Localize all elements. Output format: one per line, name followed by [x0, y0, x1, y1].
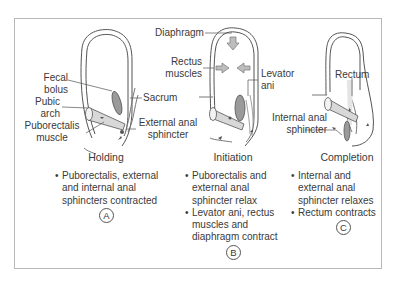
label-external-anal-sphincter: External anal sphincter	[137, 117, 199, 141]
bullet-line: and internal anal	[62, 182, 158, 194]
label-diaphragm: Diaphragm	[155, 27, 204, 39]
bullet-line: diaphragm contract	[192, 231, 278, 243]
panel-a-illustration	[81, 30, 138, 154]
circled-letter-a: A	[99, 208, 114, 223]
label-levator: Levator	[261, 68, 294, 80]
anal-canal-c-shape	[344, 121, 350, 141]
bullet-line: Puborectalis, external	[62, 170, 158, 182]
circled-letter-b: B	[226, 245, 241, 260]
rectus-arrow-left-icon	[237, 63, 250, 73]
circled-letter-c: C	[336, 220, 351, 235]
label-puborectalis-muscle: Puborectalis muscle	[22, 120, 82, 144]
bullet-line: sphincter relaxes	[298, 195, 376, 207]
label-fecal-bolus: Fecal bolus	[38, 72, 68, 96]
label-pubic-arch: Pubic arch	[30, 96, 60, 120]
bullet-line: external anal	[298, 182, 376, 194]
label-rectus-muscles: Rectus muscles	[162, 56, 202, 80]
bullet-list-b: Puborectalis and external anal sphincter…	[185, 170, 278, 244]
label-sacrum: Sacrum	[143, 92, 177, 104]
phase-title-initiation: Initiation	[201, 151, 265, 163]
bullet-item: Rectum contracts	[291, 207, 376, 219]
bullet-line: Rectum contracts	[298, 207, 376, 219]
bullet-item: Puborectalis and external anal sphincter…	[185, 170, 278, 207]
label-levator-ani: Levator ani	[261, 68, 294, 92]
label-rectum: Rectum	[335, 69, 369, 81]
label-puborectalis: Puborectalis	[22, 120, 82, 132]
bullet-line: Internal and	[298, 170, 376, 182]
bullet-list-a: Puborectalis, external and internal anal…	[55, 170, 158, 207]
label-rectus: Rectus	[162, 56, 202, 68]
pubic-arch-c-shape	[325, 98, 359, 123]
label-internal-anal-sphincter: Internal anal sphincter	[262, 112, 327, 136]
label-fecal: Fecal	[38, 72, 68, 84]
bullet-list-c: Internal and external anal sphincter rel…	[291, 170, 376, 219]
fecal-bolus-b-shape	[235, 95, 245, 121]
label-ani: ani	[261, 80, 294, 92]
rectus-arrow-right-icon	[216, 63, 229, 73]
bullet-item: Puborectalis, external and internal anal…	[55, 170, 158, 207]
bullet-item: Levator ani, rectus muscles and diaphrag…	[185, 207, 278, 244]
label-muscle: muscle	[22, 132, 82, 144]
bullet-line: sphincters contracted	[62, 195, 158, 207]
bullet-line: external anal	[192, 182, 278, 194]
label-sphincter: sphincter	[262, 124, 327, 136]
bullet-line: Levator ani, rectus	[192, 207, 278, 219]
bullet-line: sphincter relax	[192, 195, 278, 207]
label-bolus: bolus	[38, 84, 68, 96]
label-muscles: muscles	[162, 68, 202, 80]
label-pubic: Pubic	[30, 96, 60, 108]
bullet-item: Internal and external anal sphincter rel…	[291, 170, 376, 207]
bullet-line: Puborectalis and	[192, 170, 278, 182]
fecal-bolus-shape	[110, 90, 124, 115]
label-internal-anal: Internal anal	[262, 112, 327, 124]
phase-title-completion: Completion	[312, 151, 382, 163]
phase-title-holding: Holding	[74, 151, 138, 163]
panel-b-illustration	[199, 28, 258, 146]
diaphragm-arrow-icon	[227, 37, 239, 50]
bullet-line: muscles and	[192, 219, 278, 231]
label-arch: arch	[30, 108, 60, 120]
